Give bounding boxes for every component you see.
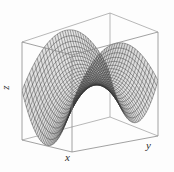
surface-plot-figure: x y z [0,0,174,172]
axis-label-x: x [65,152,70,163]
axis-label-y: y [146,140,151,151]
axis-label-z: z [0,85,11,89]
